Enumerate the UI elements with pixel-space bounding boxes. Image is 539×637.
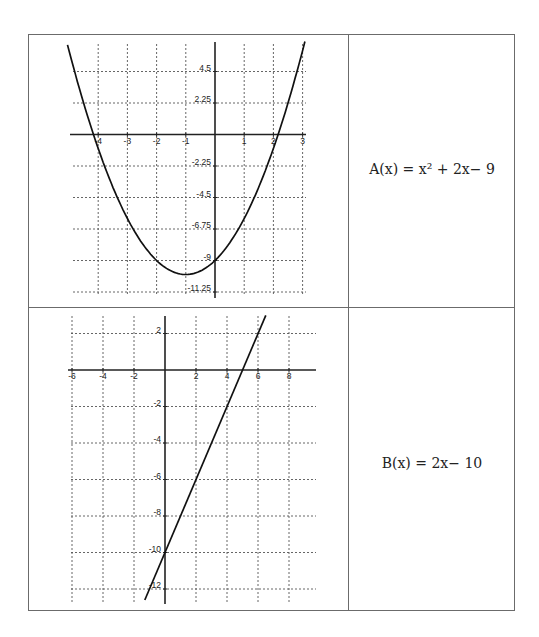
y-tick-label: -10 (149, 544, 162, 554)
function-curve (145, 315, 266, 600)
x-tick-label: 6 (256, 371, 261, 381)
x-tick-label: 4 (225, 371, 230, 381)
y-tick-label: -6 (153, 471, 161, 481)
graph-b-linear: -6-4-224682-2-4-6-8-10-12 (0, 0, 539, 637)
y-tick-label: 2 (156, 325, 161, 335)
x-tick-label: 8 (287, 371, 292, 381)
y-tick-label: -8 (153, 507, 161, 517)
x-tick-label: 2 (194, 371, 199, 381)
formula-b: B(x) = 2x− 10 (349, 455, 515, 471)
x-tick-label: -2 (130, 371, 138, 381)
x-tick-label: -4 (99, 371, 107, 381)
formula-b-label: B(x) = 2x− 10 (382, 455, 483, 471)
formula-a-label: A(x) = x² + 2x− 9 (369, 161, 495, 177)
x-tick-label: -6 (68, 371, 76, 381)
formula-a: A(x) = x² + 2x− 9 (349, 161, 515, 177)
y-tick-label: -4 (153, 434, 161, 444)
y-tick-label: -2 (153, 398, 161, 408)
